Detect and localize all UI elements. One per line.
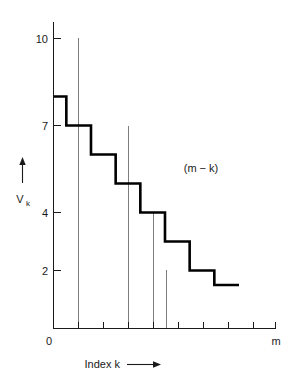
y-axis-title-subscript: k xyxy=(26,199,31,208)
x-axis: 0 m xyxy=(46,322,281,348)
step-curve-vk xyxy=(54,97,239,286)
step-chart-svg: 10 7 4 2 0 m (m − k) xyxy=(0,0,288,376)
step-curve-group xyxy=(54,97,239,286)
y-tick-label-4: 4 xyxy=(42,207,48,219)
y-tick-label-7: 7 xyxy=(42,120,48,132)
x-axis-title: Index k xyxy=(85,358,121,370)
x-axis-title-group: Index k xyxy=(85,358,161,370)
x-end-label-m: m xyxy=(271,335,280,347)
y-axis-title-group: V k xyxy=(16,157,31,208)
y-axis-title: V xyxy=(16,193,24,205)
y-axis: 10 7 4 2 xyxy=(36,22,61,329)
y-tick-label-2: 2 xyxy=(42,265,48,277)
y-axis-arrow-head-icon xyxy=(19,157,25,165)
annotation-m-minus-k: (m − k) xyxy=(184,162,219,174)
x-origin-label: 0 xyxy=(46,335,52,347)
x-axis-arrow-head-icon xyxy=(153,361,161,367)
y-tick-label-10: 10 xyxy=(36,33,48,45)
chart-figure: 10 7 4 2 0 m (m − k) xyxy=(0,0,288,376)
